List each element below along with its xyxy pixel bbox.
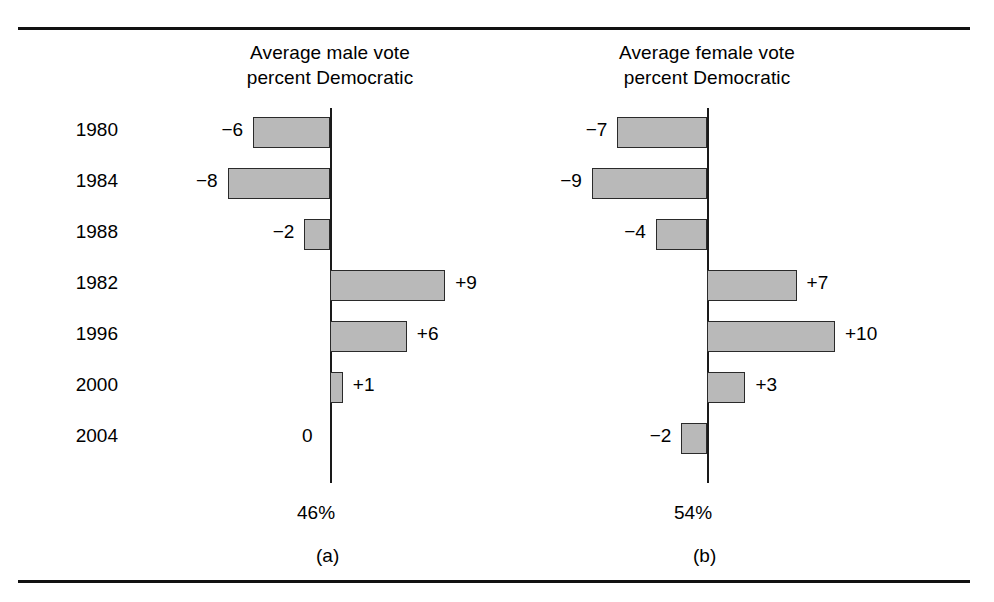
chart-a-title-line2: percent Democratic bbox=[170, 65, 490, 90]
chart-a-bar bbox=[330, 270, 445, 301]
chart-b-value-label: −2 bbox=[639, 425, 671, 447]
chart-b-value-label: +3 bbox=[755, 374, 777, 396]
figure-top-rule bbox=[18, 27, 970, 30]
chart-b-baseline-label: 54% bbox=[674, 502, 712, 524]
chart-b-row: −7 bbox=[500, 108, 970, 159]
chart-a-title-line1: Average male vote bbox=[170, 40, 490, 65]
chart-a-title: Average male vote percent Democratic bbox=[170, 40, 490, 90]
chart-a-bar bbox=[330, 321, 407, 352]
chart-b-bar bbox=[656, 219, 707, 250]
chart-a-row: 1984−8 bbox=[40, 159, 510, 210]
chart-b-row: +7 bbox=[500, 261, 970, 312]
chart-b-row: +10 bbox=[500, 312, 970, 363]
chart-b-row: −9 bbox=[500, 159, 970, 210]
chart-a-year-label: 1996 bbox=[40, 323, 118, 345]
chart-b-bar bbox=[617, 117, 707, 148]
chart-b-title-line1: Average female vote bbox=[547, 40, 867, 65]
chart-b-bar bbox=[707, 372, 745, 403]
chart-a-value-label: 0 bbox=[302, 425, 313, 447]
chart-b-value-label: −4 bbox=[614, 221, 646, 243]
chart-a-caption: (a) bbox=[316, 545, 339, 567]
figure: Average male vote percent Democratic 198… bbox=[0, 0, 994, 602]
chart-a-bar bbox=[253, 117, 330, 148]
chart-a-year-label: 1982 bbox=[40, 272, 118, 294]
chart-b-bar bbox=[681, 423, 707, 454]
chart-b-plot: −7−9−4+7+10+3−2 bbox=[500, 108, 970, 488]
chart-b-value-label: −7 bbox=[575, 119, 607, 141]
chart-a-value-label: −6 bbox=[211, 119, 243, 141]
chart-a-bar bbox=[330, 372, 343, 403]
chart-b-bar bbox=[707, 321, 835, 352]
chart-b-value-label: +10 bbox=[845, 323, 877, 345]
chart-b-title-line2: percent Democratic bbox=[547, 65, 867, 90]
chart-b-bar bbox=[592, 168, 707, 199]
chart-a-row: 2000+1 bbox=[40, 363, 510, 414]
chart-a-year-label: 1988 bbox=[40, 221, 118, 243]
chart-a-row: 1980−6 bbox=[40, 108, 510, 159]
chart-b-caption: (b) bbox=[693, 545, 716, 567]
chart-b-value-label: −9 bbox=[550, 170, 582, 192]
chart-a-value-label: −2 bbox=[262, 221, 294, 243]
chart-a-value-label: +9 bbox=[455, 272, 477, 294]
chart-a-row: 1996+6 bbox=[40, 312, 510, 363]
chart-a-value-label: +6 bbox=[417, 323, 439, 345]
chart-b-value-label: +7 bbox=[807, 272, 829, 294]
chart-a-year-label: 2000 bbox=[40, 374, 118, 396]
chart-a-bar bbox=[228, 168, 330, 199]
chart-a-year-label: 1980 bbox=[40, 119, 118, 141]
chart-b-bar bbox=[707, 270, 797, 301]
chart-a-year-label: 1984 bbox=[40, 170, 118, 192]
chart-b-title: Average female vote percent Democratic bbox=[547, 40, 867, 90]
chart-a-row: 20040 bbox=[40, 414, 510, 465]
chart-a-row: 1988−2 bbox=[40, 210, 510, 261]
chart-b-row: +3 bbox=[500, 363, 970, 414]
chart-a-row: 1982+9 bbox=[40, 261, 510, 312]
figure-bottom-rule bbox=[18, 580, 970, 583]
chart-b-row: −2 bbox=[500, 414, 970, 465]
chart-a-value-label: +1 bbox=[353, 374, 375, 396]
chart-a-baseline-label: 46% bbox=[297, 502, 335, 524]
chart-a-plot: 1980−61984−81988−21982+91996+62000+12004… bbox=[40, 108, 510, 488]
chart-a-year-label: 2004 bbox=[40, 425, 118, 447]
chart-a-bar bbox=[304, 219, 330, 250]
chart-panel-b: Average female vote percent Democratic −… bbox=[500, 40, 970, 570]
chart-a-value-label: −8 bbox=[186, 170, 218, 192]
chart-b-row: −4 bbox=[500, 210, 970, 261]
chart-panel-a: Average male vote percent Democratic 198… bbox=[40, 40, 510, 570]
